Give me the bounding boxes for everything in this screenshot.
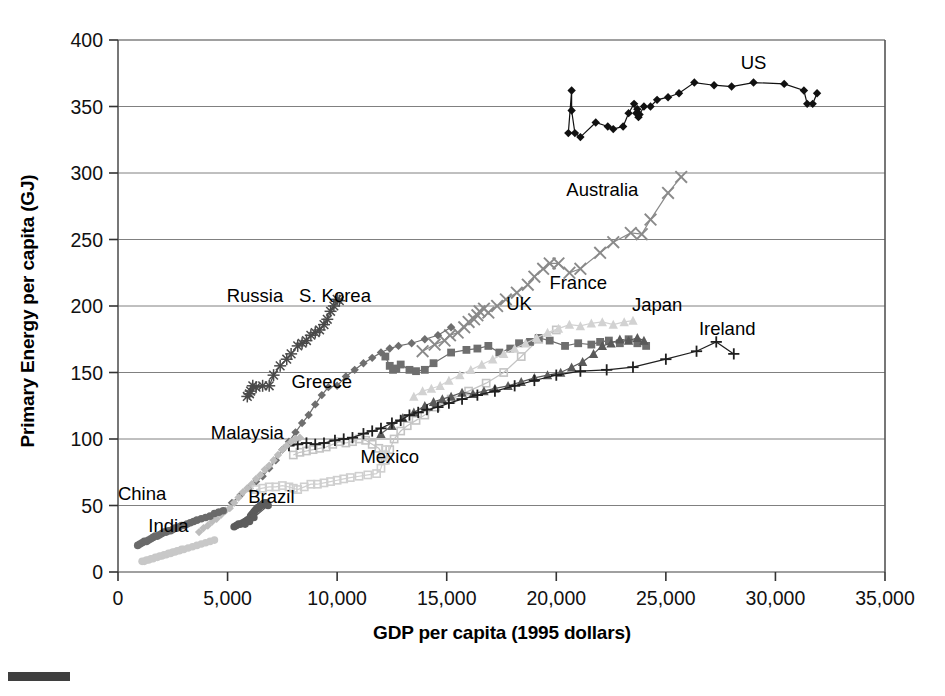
footer-mark xyxy=(8,672,70,681)
x-tick-label: 10,000 xyxy=(307,587,367,609)
x-axis-ticks: 05,00010,00015,00020,00025,00030,00035,0… xyxy=(113,572,915,609)
y-tick-label: 350 xyxy=(70,96,103,118)
series-annotations: USAustraliaRussiaS. KoreaGreeceUKFranceJ… xyxy=(118,52,766,536)
series-france xyxy=(409,316,638,401)
y-tick-label: 0 xyxy=(92,561,103,583)
y-tick-label: 100 xyxy=(70,428,103,450)
series-us xyxy=(564,78,821,141)
y-tick-label: 250 xyxy=(70,229,103,251)
series-label-ireland: Ireland xyxy=(699,318,756,339)
series-label-brazil: Brazil xyxy=(248,486,294,507)
series-label-australia: Australia xyxy=(566,179,639,200)
x-tick-label: 30,000 xyxy=(746,587,806,609)
y-tick-label: 200 xyxy=(70,295,103,317)
x-tick-label: 20,000 xyxy=(526,587,586,609)
x-tick-label: 25,000 xyxy=(636,587,696,609)
series-label-malaysia: Malaysia xyxy=(211,422,285,443)
series-label-s-korea: S. Korea xyxy=(299,285,372,306)
page-footer-strip xyxy=(0,666,945,696)
x-tick-label: 15,000 xyxy=(417,587,477,609)
series-label-greece: Greece xyxy=(291,371,352,392)
x-tick-label: 5,000 xyxy=(203,587,252,609)
series-label-us: US xyxy=(741,52,767,73)
y-tick-label: 150 xyxy=(70,362,103,384)
series-label-mexico: Mexico xyxy=(360,446,419,467)
y-tick-label: 400 xyxy=(70,29,103,51)
series-label-uk: UK xyxy=(506,293,532,314)
series-label-russia: Russia xyxy=(227,285,284,306)
y-axis-ticks: 050100150200250300350400 xyxy=(70,29,118,583)
series-label-japan: Japan xyxy=(632,294,682,315)
y-tick-label: 50 xyxy=(81,495,103,517)
series-label-india: India xyxy=(148,515,189,536)
x-tick-label: 0 xyxy=(113,587,124,609)
x-tick-label: 35,000 xyxy=(855,587,915,609)
series-ireland xyxy=(283,336,739,451)
chart-figure: Primary Energy per capita (GJ) GDP per c… xyxy=(0,0,945,696)
scatter-plot: 050100150200250300350400 05,00010,00015,… xyxy=(0,0,945,696)
y-tick-label: 300 xyxy=(70,162,103,184)
series-label-france: France xyxy=(549,272,607,293)
series-label-china: China xyxy=(118,483,167,504)
